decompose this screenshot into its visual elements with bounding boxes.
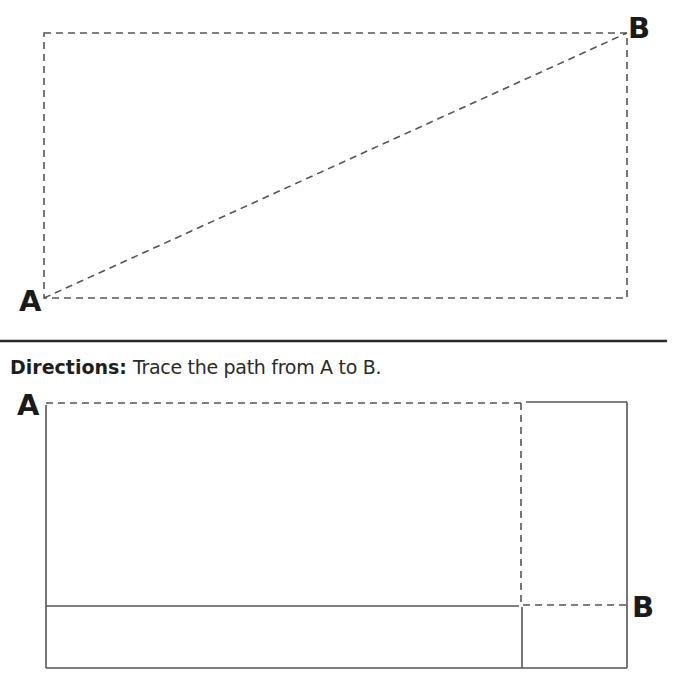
top-start-label: A xyxy=(19,287,41,316)
bottom-end-label: B xyxy=(632,593,654,622)
top-dashed-diagonal xyxy=(44,33,627,298)
top-puzzle xyxy=(44,33,627,298)
directions-text: Trace the path from A to B. xyxy=(133,356,381,378)
directions-heading: Directions: xyxy=(10,356,127,378)
worksheet-drawing xyxy=(0,0,673,684)
top-end-label: B xyxy=(628,14,650,43)
bottom-start-label: A xyxy=(17,391,39,420)
bottom-puzzle xyxy=(46,402,627,668)
directions: Directions: Trace the path from A to B. xyxy=(10,356,381,378)
